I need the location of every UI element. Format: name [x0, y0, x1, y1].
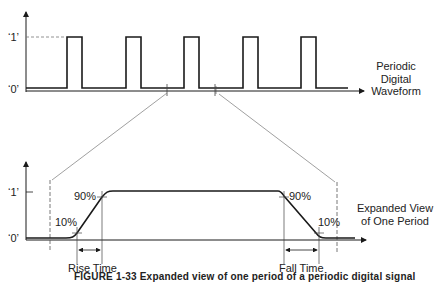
rise-10pct-mark — [72, 227, 82, 264]
rise-90pct-label: 90% — [74, 190, 96, 202]
top-waveform-panel — [26, 12, 364, 96]
top-square-waveform — [26, 37, 348, 88]
expansion-guide-left — [52, 93, 167, 180]
top-side-label-line2: Digital — [370, 73, 422, 85]
fall-10pct-label: 10% — [318, 216, 340, 228]
top-side-label-line1: Periodic — [370, 60, 422, 72]
bottom-side-label-line1: Expanded View — [354, 202, 436, 214]
bottom-expanded-panel — [26, 162, 366, 264]
top-low-level-label: ‘0’ — [8, 83, 19, 95]
bottom-high-level-label: ‘1’ — [8, 186, 19, 198]
bottom-low-level-label: ‘0’ — [8, 232, 19, 244]
top-side-label-line3: Waveform — [366, 85, 426, 97]
expansion-guide-right — [219, 94, 335, 182]
rise-10pct-label: 10% — [55, 216, 77, 228]
figure-caption: FIGURE 1-33 Expanded view of one period … — [74, 271, 415, 282]
fall-90pct-label: 90% — [289, 190, 311, 202]
fall-90pct-mark — [279, 191, 289, 264]
top-high-level-label: ‘1’ — [8, 31, 19, 43]
bottom-side-label-line2: of One Period — [354, 215, 436, 227]
